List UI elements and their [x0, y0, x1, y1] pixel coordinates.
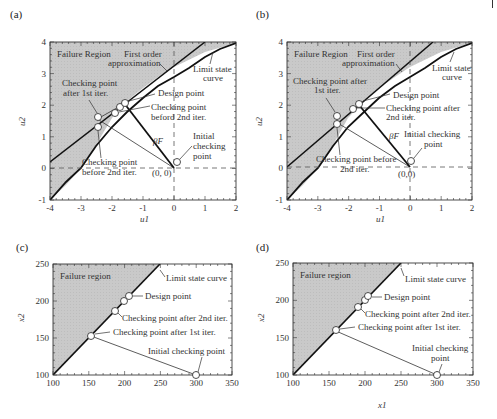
failure-region-label: Failure region	[300, 270, 351, 280]
y-tick-label: -1	[39, 195, 47, 205]
x-tick-labels: 100150200250300350	[286, 378, 480, 388]
y-tick-label: 3	[279, 69, 284, 79]
beta-label: βF	[388, 131, 399, 141]
initial-label-3: point	[193, 151, 212, 161]
design-point-marker	[356, 101, 363, 108]
y-tick-label: 250	[36, 259, 50, 269]
initial-label-1: Initial	[193, 131, 215, 141]
y-tick-label: 100	[276, 370, 290, 380]
y-tick-label: 2	[42, 100, 47, 110]
beta-label: βF	[152, 136, 163, 146]
x-tick-label: -1	[139, 203, 147, 213]
first-order-label-2: approximation	[108, 58, 161, 68]
design-point-label: Design point	[393, 90, 440, 100]
y-tick-label: 1	[279, 132, 284, 142]
y-axis-label: u2	[17, 117, 27, 127]
y-tick-label: 150	[36, 333, 50, 343]
y-tick-labels: 100150200250	[36, 259, 50, 380]
y-axis-label: u2	[254, 117, 264, 127]
checking-point-before-2nd-marker	[334, 121, 341, 128]
x-tick-label: -1	[376, 203, 384, 213]
leader-after-1st	[340, 327, 355, 329]
x-tick-label: -4	[46, 203, 54, 213]
x-tick-label: 2	[234, 203, 239, 213]
initial-label-1: Initial checking	[412, 343, 469, 353]
checking-point-after-2nd-marker	[350, 106, 357, 113]
before-2nd-label-2: before 2nd iter.	[82, 167, 137, 177]
initial-label: Initial checking point	[148, 346, 225, 356]
after-1st-label: Checking point after 1st iter.	[358, 322, 461, 332]
leader-initial	[414, 148, 422, 158]
limit-state-label: Limit state curve	[405, 274, 466, 284]
checking-point-before-2nd-marker	[95, 124, 102, 131]
panel-c-label: (c)	[16, 241, 29, 254]
after-2nd-label: Checking point after 2nd iter.	[365, 309, 471, 319]
x-tick-label: -3	[77, 203, 85, 213]
initial-label-2: point	[424, 139, 443, 149]
search-path	[336, 331, 437, 375]
y-axis-label: x2	[256, 313, 266, 323]
checking-point-after-1st-marker	[88, 333, 95, 340]
failure-region-label: Failure Region	[294, 49, 348, 59]
before-2nd-label-2: 2nd iter.	[340, 164, 370, 174]
leader-initial	[180, 146, 192, 159]
initial-checking-point-marker	[174, 159, 181, 166]
x-tick-label: 0	[172, 203, 177, 213]
x-axis-label: u1	[140, 214, 149, 224]
x-axis-label: x1	[377, 400, 387, 410]
figure-canvas: (a) Failure Region First order a	[0, 0, 497, 419]
x-tick-label: 150	[322, 378, 336, 388]
after-1st-label-2: after 1st iter.	[63, 88, 108, 98]
after-1st-label-1: Checking point	[62, 78, 118, 88]
checking-point-after-1st-marker	[333, 327, 340, 334]
failure-region-label: Failure region	[60, 271, 111, 281]
initial-checking-point-marker	[408, 158, 415, 165]
x-tick-label: 1	[439, 203, 444, 213]
origin-label: (0,0)	[398, 169, 415, 179]
x-tick-labels: 100150200250300350	[46, 378, 239, 388]
after-2nd-label: Checking point after 2nd iter.	[122, 313, 228, 323]
y-tick-label: 200	[36, 296, 50, 306]
x-tick-label: -2	[345, 203, 353, 213]
y-tick-label: 200	[276, 295, 290, 305]
y-tick-label: 150	[276, 333, 290, 343]
after-2nd-label-2: 2nd iter.	[386, 112, 416, 122]
x-tick-labels: -4-3-2-1012	[283, 203, 474, 213]
origin-label: (0, 0)	[152, 168, 172, 178]
initial-label-2: point	[431, 353, 450, 363]
x-axis-label: u1	[376, 214, 385, 224]
design-point-label: Design point	[145, 291, 192, 301]
y-tick-labels: 100150200250	[276, 258, 290, 380]
y-tick-label: 4	[279, 37, 284, 47]
x-tick-label: 2	[470, 203, 475, 213]
leader-initial	[198, 357, 202, 372]
x-tick-label: -3	[314, 203, 322, 213]
x-tick-label: 350	[225, 378, 239, 388]
x-tick-label: 300	[189, 378, 203, 388]
after-1st-label-2: 1st iter.	[314, 85, 341, 95]
x-tick-label: 200	[118, 378, 132, 388]
y-tick-label: 2	[279, 100, 284, 110]
x-tick-labels: -4-3-2-1012	[46, 203, 238, 213]
x-tick-label: 350	[466, 378, 480, 388]
checking-point-after-1st-marker	[334, 113, 341, 120]
checking-point-after-1st-marker	[95, 114, 102, 121]
limit-state-label-2: curve	[442, 72, 462, 82]
before-2nd-label-1: Checking point	[82, 157, 138, 167]
beford-2nd-label-1: Checking point	[151, 102, 207, 112]
panel-a: (a) Failure Region First order a	[10, 8, 238, 224]
x-tick-label: -2	[108, 203, 116, 213]
x-tick-label: 250	[394, 378, 408, 388]
y-tick-labels: -101234	[39, 37, 47, 205]
design-point-label: Design point	[384, 292, 431, 302]
leader-after-1st	[95, 332, 110, 334]
y-tick-label: 0	[42, 163, 47, 173]
y-tick-label: -1	[276, 195, 284, 205]
y-axis-label: x2	[16, 313, 26, 323]
panel-d: (d) Failure region Limit state curve Des…	[256, 241, 480, 410]
y-tick-label: 3	[42, 69, 47, 79]
panel-d-label: (d)	[256, 241, 269, 254]
panel-a-label: (a)	[10, 8, 23, 21]
x-tick-label: 250	[154, 378, 168, 388]
panel-b: (b) Failure Region First order approxima…	[254, 8, 474, 224]
